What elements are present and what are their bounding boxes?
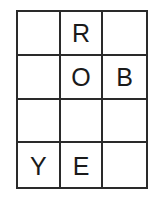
grid-cell-r3-c2[interactable] [103, 143, 146, 187]
grid-cell-r2-c2[interactable] [103, 100, 146, 144]
grid-cell-r0-c0[interactable] [18, 12, 61, 56]
letter-grid: R O B Y E [16, 10, 148, 189]
grid-cell-r0-c2[interactable] [103, 12, 146, 56]
grid-cell-r1-c2[interactable]: B [103, 56, 146, 100]
grid-cell-r1-c1[interactable]: O [61, 56, 104, 100]
grid-cell-r3-c0[interactable]: Y [18, 143, 61, 187]
grid-cell-r2-c0[interactable] [18, 100, 61, 144]
grid-cell-r3-c1[interactable]: E [61, 143, 104, 187]
grid-cell-r2-c1[interactable] [61, 100, 104, 144]
grid-cell-r1-c0[interactable] [18, 56, 61, 100]
grid-cell-r0-c1[interactable]: R [61, 12, 104, 56]
